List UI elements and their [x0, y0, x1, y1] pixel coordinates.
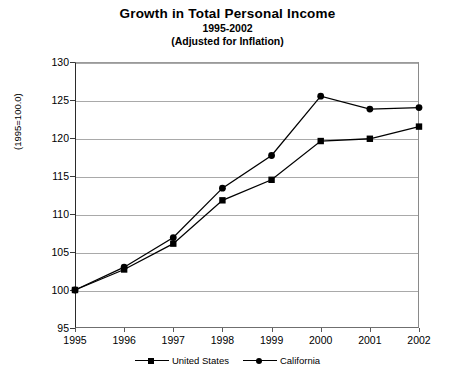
- gridline: [76, 177, 418, 178]
- x-tick-label: 2000: [296, 334, 346, 346]
- gridline: [76, 139, 418, 140]
- x-tick-label: 1997: [148, 334, 198, 346]
- x-tick-label: 1999: [247, 334, 297, 346]
- gridline: [76, 253, 418, 254]
- y-tick-mark: [70, 214, 75, 215]
- legend-entry[interactable]: California: [243, 355, 320, 366]
- x-tick-label: 1995: [50, 334, 100, 346]
- gridline: [76, 215, 418, 216]
- y-tick-label: 130: [39, 57, 69, 67]
- x-tick-mark: [124, 328, 125, 332]
- y-tick-mark: [70, 252, 75, 253]
- x-tick-mark: [173, 328, 174, 332]
- y-axis-title: (1995=100.0): [12, 93, 23, 150]
- x-tick-mark: [321, 328, 322, 332]
- circle-marker-icon: [243, 356, 277, 365]
- y-tick-mark: [70, 62, 75, 63]
- chart-legend: United StatesCalifornia: [0, 355, 455, 366]
- y-tick-label: 115: [39, 171, 69, 181]
- gridline: [76, 63, 418, 64]
- y-tick-label: 120: [39, 133, 69, 143]
- y-tick-mark: [70, 290, 75, 291]
- x-tick-label: 1996: [99, 334, 149, 346]
- x-tick-mark: [222, 328, 223, 332]
- legend-label: United States: [172, 355, 229, 366]
- y-tick-label: 100: [39, 285, 69, 295]
- gridline: [76, 101, 418, 102]
- legend-label: California: [280, 355, 320, 366]
- y-tick-mark: [70, 176, 75, 177]
- square-marker-icon: [135, 356, 169, 365]
- x-tick-mark: [419, 328, 420, 332]
- x-tick-mark: [370, 328, 371, 332]
- y-tick-label: 105: [39, 247, 69, 257]
- y-tick-label: 125: [39, 95, 69, 105]
- y-tick-mark: [70, 100, 75, 101]
- legend-entry[interactable]: United States: [135, 355, 229, 366]
- chart-plot-wrapper: (1995=100.0) 951001051101151201251301995…: [0, 0, 455, 381]
- y-tick-label: 110: [39, 209, 69, 219]
- x-tick-mark: [272, 328, 273, 332]
- gridline: [76, 291, 418, 292]
- x-tick-label: 1998: [197, 334, 247, 346]
- x-tick-label: 2002: [394, 334, 444, 346]
- plot-area: [75, 62, 419, 328]
- y-tick-mark: [70, 138, 75, 139]
- x-tick-label: 2001: [345, 334, 395, 346]
- x-tick-mark: [75, 328, 76, 332]
- y-tick-label: 95: [39, 323, 69, 333]
